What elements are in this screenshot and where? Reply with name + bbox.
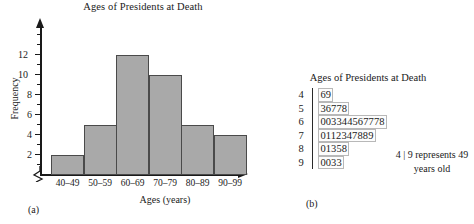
stem-leaf-divider [312,156,313,170]
stem-leaf-row: 9 0033 [294,156,387,170]
stem-value: 4 [294,89,308,100]
y-tick-4 [35,134,41,135]
y-tick-label-4: 4 [10,130,32,140]
x-tick-label-40-49: 40–49 [51,178,84,188]
x-axis-label: Ages (years) [100,194,230,205]
y-tick-12 [35,54,41,55]
y-tick-label-8: 8 [10,90,32,100]
histogram-bar [181,125,214,175]
stem-and-leaf-title: Ages of Presidents at Death [286,72,450,83]
y-axis-arrow-icon [36,18,44,28]
histogram-panel: Ages of Presidents at Death Frequency 2 … [0,0,250,224]
y-tick-label-12: 12 [6,50,28,60]
y-tick-6 [35,114,41,115]
y-tick-label-10: 10 [6,70,28,80]
y-tick-minor [37,164,41,165]
y-tick-minor [37,34,41,35]
x-tick-label-80-89: 80–89 [181,178,214,188]
y-tick-minor [37,144,41,145]
leaf-values: 0112347889 [318,129,375,143]
y-tick-minor [37,84,41,85]
stem-and-leaf-panel: Ages of Presidents at Death 4 69 5 36778… [250,0,474,224]
y-tick-label-6: 6 [10,110,32,120]
stem-leaf-key: 4 | 9 represents 49 years old [390,148,474,176]
stem-leaf-row: 5 36778 [294,102,387,116]
histogram-bar [149,75,182,175]
stem-leaf-row: 7 0112347889 [294,129,387,143]
y-tick-minor [37,44,41,45]
y-tick-label-2: 2 [10,150,32,160]
leaf-values: 36778 [318,102,349,116]
stem-leaf-row: 8 01358 [294,142,387,156]
axis-break-icon [31,166,51,182]
histogram-bar [116,55,149,175]
stem-leaf-row: 4 69 [294,88,387,102]
histogram-bar [214,135,247,175]
panel-label-b: (b) [306,198,318,209]
x-tick-label-50-59: 50–59 [84,178,117,188]
stem-value: 6 [294,116,308,127]
y-tick-minor [37,124,41,125]
stem-value: 7 [294,130,308,141]
stem-and-leaf-table: 4 69 5 36778 6 003344567778 7 0112347889… [294,88,387,169]
stem-value: 8 [294,143,308,154]
x-tick-label-70-79: 70–79 [149,178,182,188]
stem-leaf-divider [312,88,313,102]
stem-value: 5 [294,103,308,114]
leaf-values: 0033 [318,156,343,170]
y-tick-minor [37,64,41,65]
x-tick-label-60-69: 60–69 [116,178,149,188]
y-tick-10 [35,74,41,75]
leaf-values: 69 [318,88,333,102]
stem-value: 9 [294,157,308,168]
histogram-title: Ages of Presidents at Death [58,1,228,12]
stem-leaf-divider [312,115,313,129]
histogram-bar [84,125,117,175]
histogram-bar [51,155,84,175]
stem-leaf-divider [312,129,313,143]
y-tick-minor [37,104,41,105]
stem-leaf-row: 6 003344567778 [294,115,387,129]
y-tick-2 [35,154,41,155]
stem-leaf-key-line2: years old [390,162,474,176]
y-tick-8 [35,94,41,95]
x-tick-label-90-99: 90–99 [214,178,247,188]
stem-leaf-key-line1: 4 | 9 represents 49 [396,149,469,160]
panel-label-a: (a) [28,204,39,215]
stem-leaf-divider [312,102,313,116]
leaf-values: 01358 [318,142,349,156]
leaf-values: 003344567778 [318,115,386,129]
stem-leaf-divider [312,142,313,156]
